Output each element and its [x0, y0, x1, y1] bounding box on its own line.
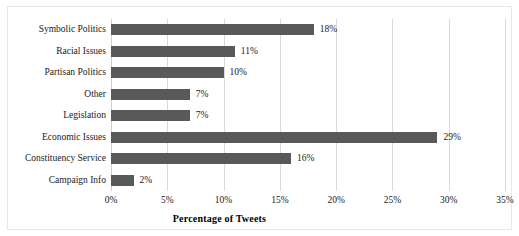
category-label: Symbolic Politics [16, 19, 106, 41]
x-tick-label: 30% [429, 195, 469, 205]
y-axis-category-labels: Symbolic PoliticsRacial IssuesPartisan P… [16, 19, 106, 191]
bar-row: 18% [111, 19, 505, 41]
category-label: Legislation [16, 105, 106, 127]
bar-value-label: 7% [196, 86, 209, 102]
category-label: Partisan Politics [16, 62, 106, 84]
bar-value-label: 10% [230, 64, 247, 80]
bar-value-label: 2% [140, 172, 153, 188]
bar [111, 110, 190, 121]
category-label: Other [16, 84, 106, 106]
x-tick-label: 10% [204, 195, 244, 205]
category-label: Racial Issues [16, 41, 106, 63]
x-tick-label: 20% [316, 195, 356, 205]
bar-row: 10% [111, 62, 505, 84]
bar [111, 46, 235, 57]
x-axis-title-text: Percentage of Tweets [173, 213, 266, 224]
chart-container: Symbolic PoliticsRacial IssuesPartisan P… [7, 6, 512, 230]
x-tick-label: 25% [372, 195, 412, 205]
category-label: Economic Issues [16, 127, 106, 149]
bar [111, 132, 437, 143]
bar [111, 89, 190, 100]
bar-row: 16% [111, 148, 505, 170]
x-tick-label: 5% [147, 195, 187, 205]
bar-row: 29% [111, 127, 505, 149]
bar-row: 2% [111, 170, 505, 192]
bar-value-label: 11% [241, 43, 258, 59]
gridline-35% [505, 19, 506, 191]
bar [111, 175, 134, 186]
x-tick-label: 35% [485, 195, 519, 205]
bar [111, 67, 224, 78]
bar [111, 24, 314, 35]
category-label: Campaign Info [16, 170, 106, 192]
bar-row: 11% [111, 41, 505, 63]
x-tick-label: 0% [91, 195, 131, 205]
bar-value-label: 18% [320, 21, 337, 37]
plot-area: 18%11%10%7%7%29%16%2% [111, 19, 505, 191]
category-label: Constituency Service [16, 148, 106, 170]
x-axis-tick-labels: 0%5%10%15%20%25%30%35% [111, 195, 505, 211]
bar-value-label: 7% [196, 107, 209, 123]
bar-value-label: 29% [443, 129, 460, 145]
bar-row: 7% [111, 84, 505, 106]
bar [111, 153, 291, 164]
x-axis-title: Percentage of Tweets [8, 213, 511, 224]
bar-row: 7% [111, 105, 505, 127]
x-tick-label: 15% [260, 195, 300, 205]
bar-value-label: 16% [297, 150, 314, 166]
